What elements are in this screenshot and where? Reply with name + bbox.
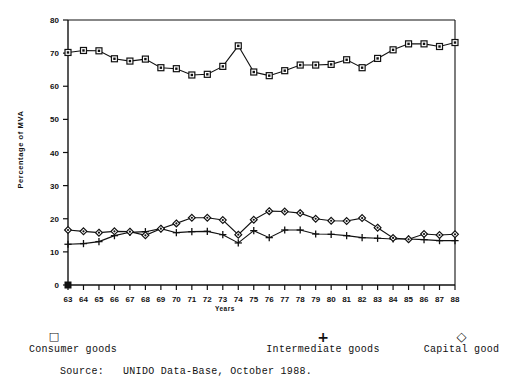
- svg-text:70: 70: [50, 49, 59, 58]
- chart-page: 01020304050607080 6364656667686970717273…: [0, 0, 519, 390]
- svg-text:66: 66: [110, 295, 119, 304]
- diamond-marker-icon: ◇: [404, 330, 519, 344]
- svg-text:64: 64: [79, 295, 88, 304]
- x-axis-label: Years: [215, 305, 235, 312]
- svg-text:30: 30: [50, 182, 59, 191]
- series-intermediate-goods: [64, 225, 458, 248]
- svg-text:81: 81: [342, 295, 351, 304]
- plus-marker-icon: +: [238, 330, 408, 344]
- svg-text:83: 83: [373, 295, 382, 304]
- x-axis-ticks: 6364656667686970717273747576777879808182…: [64, 285, 460, 304]
- legend-label-capital-good: Capital good: [404, 344, 519, 355]
- svg-text:76: 76: [265, 295, 274, 304]
- svg-text:86: 86: [420, 295, 429, 304]
- series-capital-good: [65, 208, 459, 243]
- svg-text:40: 40: [50, 149, 59, 158]
- legend-item-consumer-goods: □ Consumer goods: [8, 330, 138, 355]
- svg-text:84: 84: [389, 295, 398, 304]
- chart-legend: □ Consumer goods + Intermediate goods ◇ …: [0, 330, 519, 362]
- svg-text:75: 75: [249, 295, 258, 304]
- svg-text:78: 78: [296, 295, 305, 304]
- svg-text:72: 72: [203, 295, 212, 304]
- legend-item-intermediate-goods: + Intermediate goods: [238, 330, 408, 355]
- svg-text:82: 82: [358, 295, 367, 304]
- legend-label-consumer-goods: Consumer goods: [8, 344, 138, 355]
- y-axis-label: Percentage of MVA: [16, 90, 25, 210]
- square-marker-icon: □: [34, 330, 74, 344]
- svg-text:70: 70: [172, 295, 181, 304]
- legend-item-capital-good: ◇ Capital good: [404, 330, 519, 355]
- svg-text:10: 10: [50, 248, 59, 257]
- svg-text:85: 85: [404, 295, 413, 304]
- y-axis-ticks: 01020304050607080: [50, 16, 68, 290]
- svg-text:20: 20: [50, 215, 59, 224]
- svg-text:80: 80: [50, 16, 59, 25]
- svg-text:71: 71: [187, 295, 196, 304]
- plot-frame: [68, 20, 455, 285]
- svg-text:74: 74: [234, 295, 243, 304]
- legend-label-intermediate-goods: Intermediate goods: [238, 344, 408, 355]
- svg-text:79: 79: [311, 295, 320, 304]
- svg-text:87: 87: [435, 295, 444, 304]
- svg-text:80: 80: [327, 295, 336, 304]
- svg-text:50: 50: [50, 115, 59, 124]
- svg-text:67: 67: [125, 295, 134, 304]
- svg-text:77: 77: [280, 295, 289, 304]
- svg-text:73: 73: [218, 295, 227, 304]
- source-note: Source: UNIDO Data-Base, October 1988.: [60, 366, 312, 377]
- svg-text:69: 69: [156, 295, 165, 304]
- svg-text:68: 68: [141, 295, 150, 304]
- svg-text:63: 63: [64, 295, 73, 304]
- series-layer: [64, 40, 458, 288]
- series-consumer-goods: [65, 40, 458, 79]
- svg-text:88: 88: [451, 295, 460, 304]
- chart-figure: 01020304050607080 6364656667686970717273…: [0, 0, 519, 320]
- line-chart-plot: 01020304050607080 6364656667686970717273…: [0, 0, 519, 320]
- svg-text:60: 60: [50, 82, 59, 91]
- svg-text:65: 65: [95, 295, 104, 304]
- svg-text:0: 0: [55, 281, 60, 290]
